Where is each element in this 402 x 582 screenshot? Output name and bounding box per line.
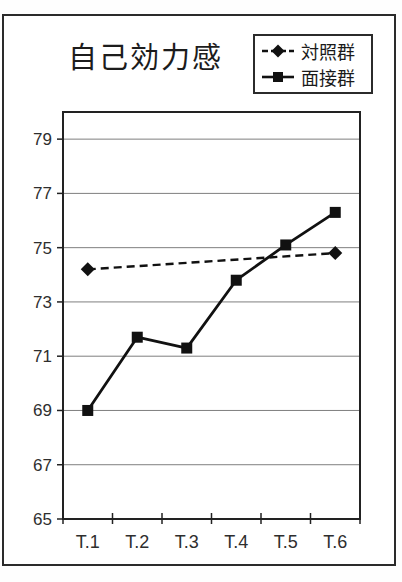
data-point-square-marker xyxy=(82,405,93,416)
data-point-square-marker xyxy=(181,343,192,354)
x-tick-label: T.5 xyxy=(274,532,298,552)
y-tick-label: 71 xyxy=(33,347,52,366)
x-tick-label: T.6 xyxy=(323,532,347,552)
data-point-diamond-marker xyxy=(81,262,95,276)
series-line-0 xyxy=(88,253,336,269)
y-tick-label: 77 xyxy=(33,184,52,203)
y-tick-label: 79 xyxy=(33,130,52,149)
x-tick-label: T.1 xyxy=(76,532,100,552)
data-point-square-marker xyxy=(280,239,291,250)
data-point-square-marker xyxy=(132,332,143,343)
y-tick-label: 67 xyxy=(33,456,52,475)
x-tick-label: T.4 xyxy=(224,532,248,552)
line-chart-plot: 6567697173757779T.1T.2T.3T.4T.5T.6 xyxy=(0,0,402,582)
data-point-square-marker xyxy=(330,207,341,218)
scanned-figure-page: 自己効力感 対照群 面接群 6567697173757779T.1T.2T.3T… xyxy=(0,0,402,582)
y-tick-label: 73 xyxy=(33,293,52,312)
x-tick-label: T.2 xyxy=(125,532,149,552)
y-tick-label: 65 xyxy=(33,510,52,529)
data-point-diamond-marker xyxy=(328,246,342,260)
y-tick-label: 75 xyxy=(33,239,52,258)
data-point-square-marker xyxy=(231,275,242,286)
x-tick-label: T.3 xyxy=(175,532,199,552)
y-tick-label: 69 xyxy=(33,401,52,420)
series-line-1 xyxy=(88,212,336,410)
